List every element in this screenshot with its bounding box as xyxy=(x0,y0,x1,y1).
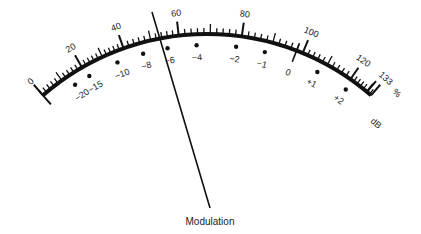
db-dot xyxy=(73,83,77,87)
percent-label: 20 xyxy=(64,41,78,55)
tick-mark xyxy=(119,35,124,48)
db-label: −2 xyxy=(229,53,240,64)
db-dot xyxy=(87,74,91,78)
percent-label: 40 xyxy=(110,21,123,34)
percent-labels: 020406080100120133 xyxy=(26,8,395,87)
db-dot xyxy=(141,51,145,55)
db-dot xyxy=(234,45,238,49)
db-dot xyxy=(344,87,348,91)
db-label: −15 xyxy=(86,79,104,95)
tick-mark xyxy=(177,22,179,36)
db-label: −10 xyxy=(113,66,131,81)
db-label: −1 xyxy=(256,58,268,70)
db-dot xyxy=(165,46,169,50)
meter-needle xyxy=(152,12,210,208)
db-label: +2 xyxy=(332,92,346,106)
meter-title: Modulation xyxy=(186,216,235,227)
percent-label: 100 xyxy=(302,25,320,40)
db-label: −4 xyxy=(192,52,203,62)
db-unit-label: dB xyxy=(369,116,384,131)
tick-mark xyxy=(242,23,244,37)
db-label: 0 xyxy=(284,67,292,78)
db-dot xyxy=(263,50,267,54)
percent-label: 60 xyxy=(171,8,182,19)
db-label: −8 xyxy=(140,59,153,71)
percent-label: 80 xyxy=(239,8,250,19)
percent-label: 120 xyxy=(354,52,372,69)
modulation-meter: 020406080100120133 −20−15−10−8−6−4−2−10+… xyxy=(0,0,421,234)
percent-unit-label: % xyxy=(391,87,404,100)
db-dot xyxy=(115,60,119,64)
tick-mark xyxy=(303,40,308,53)
db-label: +1 xyxy=(305,76,319,90)
db-dot xyxy=(315,70,319,74)
db-dot xyxy=(194,43,198,47)
